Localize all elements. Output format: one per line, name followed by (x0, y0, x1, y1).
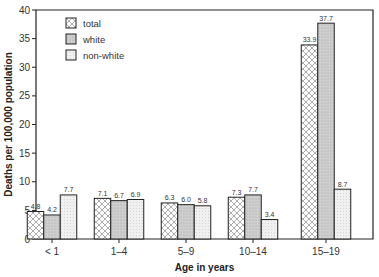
bar-white (318, 23, 335, 239)
value-label: 7.7 (248, 186, 258, 193)
legend-label: total (83, 18, 101, 29)
x-tick-label: 5–9 (178, 246, 195, 257)
legend-label: non-white (83, 50, 124, 61)
bar-white (111, 201, 128, 239)
value-label: 37.7 (319, 15, 333, 22)
value-label: 8.7 (338, 181, 348, 188)
y-tick-label: 35 (19, 33, 31, 44)
bar-non-white (194, 206, 211, 239)
x-tick-label: < 1 (45, 246, 60, 257)
value-label: 6.9 (131, 191, 141, 198)
legend-swatch-non-white (66, 50, 76, 60)
value-label: 4.8 (31, 203, 41, 210)
bar-total (228, 197, 245, 239)
value-label: 3.4 (265, 211, 275, 218)
y-tick-label: 25 (19, 90, 31, 101)
bar-total (27, 212, 44, 239)
bar-non-white (127, 199, 144, 239)
value-label: 5.8 (198, 197, 208, 204)
bar-total (94, 198, 111, 239)
x-tick-label: 15–19 (312, 246, 340, 257)
legend-label: white (82, 34, 105, 45)
y-tick-label: 15 (19, 148, 31, 159)
bar-non-white (334, 189, 351, 239)
value-label: 33.9 (303, 36, 317, 43)
x-axis-title: Age in years (175, 262, 235, 273)
y-tick-label: 10 (19, 176, 31, 187)
bar-white (44, 215, 61, 239)
bar-non-white (261, 220, 278, 239)
value-label: 4.2 (47, 206, 57, 213)
y-axis-title: Deaths per 100,000 population (3, 52, 14, 197)
y-tick-label: 30 (19, 62, 31, 73)
y-tick-label: 40 (19, 5, 31, 16)
y-tick-label: 20 (19, 119, 31, 130)
value-label: 6.0 (181, 196, 191, 203)
value-label: 6.3 (165, 194, 175, 201)
legend-swatch-total (66, 18, 76, 28)
bar-total (301, 45, 318, 239)
plot-area: 05101520253035404.84.27.7< 17.16.76.91–4… (3, 5, 373, 274)
value-label: 7.1 (98, 190, 108, 197)
bar-chart: 05101520253035404.84.27.7< 17.16.76.91–4… (0, 0, 379, 277)
x-tick-label: 10–14 (239, 246, 267, 257)
value-label: 7.3 (232, 189, 242, 196)
bar-white (245, 195, 262, 239)
value-label: 7.7 (64, 186, 74, 193)
value-label: 6.7 (114, 192, 124, 199)
x-tick-label: 1–4 (111, 246, 128, 257)
bar-non-white (60, 195, 77, 239)
bar-white (178, 205, 195, 239)
legend-swatch-white (66, 34, 76, 44)
bar-total (161, 203, 178, 239)
